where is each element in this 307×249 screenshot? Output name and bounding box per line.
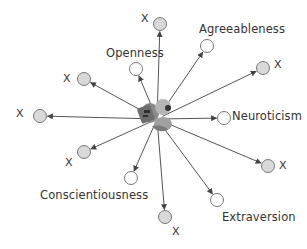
node-circle-agreeableness <box>201 40 214 53</box>
personality-diagram: XAgreeablenessOpennessXXXNeuroticismXCon… <box>0 0 307 249</box>
node-label-x-lower-left: X <box>65 157 73 168</box>
person-figure-icon <box>137 99 172 131</box>
arrow-x-left <box>47 116 151 119</box>
node-circle-x-bottom <box>159 211 172 224</box>
node-circle-conscientiousness <box>125 172 138 185</box>
arrow-neuroticism <box>163 118 217 119</box>
arrow-x-lower-right <box>163 121 262 163</box>
node-label-x-lower-right: X <box>279 160 287 171</box>
node-circle-neuroticism <box>218 112 231 125</box>
node-label-openness: Openness <box>106 48 164 60</box>
arrow-x-bottom <box>157 125 164 210</box>
node-label-agreeableness: Agreeableness <box>199 24 285 36</box>
node-label-x-upper-right: X <box>274 59 282 70</box>
node-circle-x-upper-left <box>78 73 91 86</box>
node-circle-x-lower-right <box>262 160 275 173</box>
node-label-neuroticism: Neuroticism <box>232 111 302 123</box>
node-circle-openness <box>130 63 143 76</box>
node-label-x-left: X <box>16 108 24 119</box>
arrow-extraversion <box>161 124 213 194</box>
node-label-x-upper-left: X <box>63 73 71 84</box>
node-label-x-top: X <box>141 13 149 24</box>
arrow-conscientiousness <box>134 124 155 171</box>
node-circle-x-top <box>154 18 167 31</box>
node-label-conscientiousness: Conscientiousness <box>40 190 148 202</box>
node-circle-x-left <box>34 110 47 123</box>
node-label-extraversion: Extraversion <box>222 212 296 224</box>
node-circle-x-upper-right <box>257 62 270 75</box>
arrow-x-lower-left <box>91 121 152 148</box>
node-label-x-bottom: X <box>172 226 180 237</box>
node-circle-extraversion <box>211 194 224 207</box>
node-circle-x-lower-left <box>78 146 91 159</box>
